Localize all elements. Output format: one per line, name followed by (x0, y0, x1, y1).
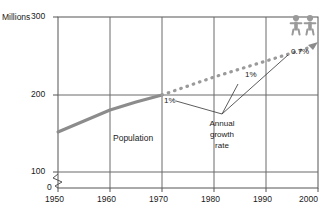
xtick-label-2000: 2000 (299, 195, 318, 204)
population-series-label: Population (113, 134, 153, 143)
annual-growth-rate-line-2: growth (196, 130, 248, 141)
xtick-label-1980: 1980 (201, 195, 220, 204)
annual-growth-rate-callout: Annual growth rate (196, 119, 248, 151)
xtick-label-1950: 1950 (45, 195, 64, 204)
ytick-label-300: 300 (31, 12, 45, 21)
person-icon-2 (304, 15, 317, 36)
growth-rate-label-2000: 0.7% (291, 48, 309, 56)
growth-rate-label-1985: 1% (245, 71, 257, 79)
ytick-label-0: 0 (47, 183, 52, 192)
annual-growth-rate-line-3: rate (196, 141, 248, 152)
y-axis-unit-label: Millions (2, 13, 30, 22)
xtick-label-1990: 1990 (253, 195, 272, 204)
ytick-label-100: 100 (31, 167, 45, 176)
xtick-label-1960: 1960 (97, 195, 116, 204)
annual-growth-rate-line-1: Annual (196, 119, 248, 130)
ytick-label-200: 200 (31, 90, 45, 99)
population-projection-chart: Millions 300 200 100 0 1950 1960 1970 19… (0, 0, 328, 209)
growth-rate-label-1970: 1% (164, 97, 176, 105)
person-icon-1 (290, 15, 303, 36)
xtick-label-1970: 1970 (149, 195, 168, 204)
